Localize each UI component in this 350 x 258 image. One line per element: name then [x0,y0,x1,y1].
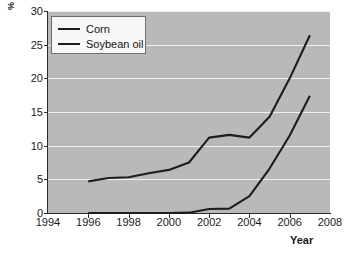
x-axis-title: Year [290,234,313,246]
series-line-soybean-oil [88,96,310,213]
legend-line-swatch-icon [58,28,80,30]
legend-item-soybean-oil: Soybean oil [58,37,144,51]
series-line-corn [88,35,310,181]
legend-line-swatch-icon [58,43,80,45]
legend-item-corn: Corn [58,22,110,36]
legend-label: Soybean oil [86,39,144,50]
legend: Corn Soybean oil [51,16,146,54]
legend-label: Corn [86,24,110,35]
line-chart-figure: 051015202530 199419961998200020022004200… [0,0,350,258]
y-axis-title: % [6,2,16,10]
